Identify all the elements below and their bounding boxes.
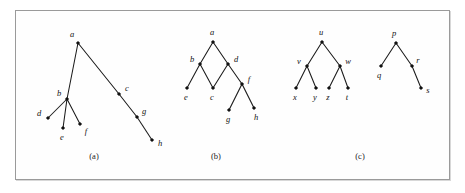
- figure-root: abcdefghabdecfghuvwxyztpqrs (a)(b)(c): [0, 0, 465, 193]
- graph-node-label-c-t: t: [346, 93, 348, 102]
- graph-node-label-b-g: g: [226, 115, 230, 124]
- panel-caption-b: (b): [211, 152, 221, 161]
- graph-node-label-b-f: f: [248, 75, 250, 84]
- graph-node-label-a-f: f: [85, 127, 87, 136]
- graph-node-label-c-s: s: [426, 86, 429, 95]
- graph-node-label-c-v: v: [297, 57, 301, 66]
- graph-node-label-c-x: x: [293, 93, 297, 102]
- graph-node-label-a-h: h: [158, 139, 162, 148]
- panel-caption-a: (a): [89, 152, 98, 161]
- graph-node-label-b-a: a: [210, 28, 214, 37]
- graph-node-label-a-a: a: [70, 30, 74, 39]
- graph-node-label-c-p: p: [392, 29, 396, 38]
- graph-node-label-a-d: d: [37, 109, 41, 118]
- graph-node-label-a-g: g: [142, 107, 146, 116]
- graph-node-label-a-b: b: [57, 89, 61, 98]
- graph-node-label-c-u: u: [319, 28, 323, 37]
- graph-node-label-c-r: r: [416, 56, 419, 65]
- graph-node-label-b-e: e: [184, 93, 188, 102]
- graph-node-label-c-y: y: [313, 93, 317, 102]
- graph-node-label-a-e: e: [60, 133, 64, 142]
- graph-node-label-b-d: d: [234, 55, 238, 64]
- graph-node-label-a-c: c: [125, 84, 129, 93]
- graph-node-label-b-b: b: [190, 55, 194, 64]
- panel-caption-c: (c): [355, 152, 364, 161]
- graph-node-label-b-h: h: [254, 113, 258, 122]
- graph-node-label-b-c: c: [210, 93, 214, 102]
- graph-node-label-c-z: z: [326, 93, 329, 102]
- graph-node-label-c-w: w: [345, 57, 351, 66]
- figure-border-frame: [15, 10, 450, 180]
- graph-node-label-c-q: q: [377, 71, 381, 80]
